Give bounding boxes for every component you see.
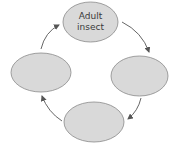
stage-label-adult-insect: Adult insect <box>63 11 119 33</box>
arrow-top-to-right <box>122 22 149 52</box>
arrow-bottom-to-left <box>42 96 62 121</box>
stage-ellipse-right <box>111 56 168 96</box>
stage-ellipse-left <box>11 53 71 92</box>
arrow-right-to-bottom <box>128 98 141 119</box>
arrow-left-to-top <box>41 25 59 49</box>
stage-ellipse-bottom <box>64 102 124 142</box>
